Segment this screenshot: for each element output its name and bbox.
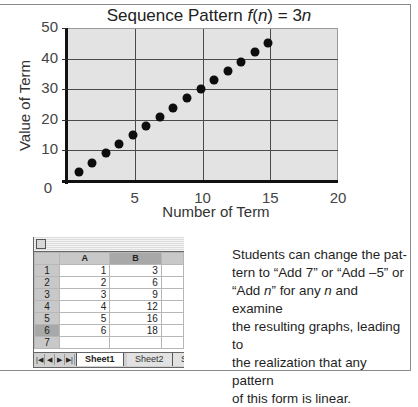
chart-title: Sequence Pattern f(n) = 3n [0, 6, 418, 26]
cell-a[interactable]: 2 [60, 277, 110, 289]
column-header-c[interactable] [161, 253, 183, 265]
data-point-marker [237, 57, 246, 66]
cell-a[interactable]: 4 [60, 301, 110, 313]
y-tick-label: 40 [28, 49, 58, 66]
row-header[interactable]: 5 [35, 313, 60, 325]
caption-line: the resulting graphs, leading to [232, 318, 410, 354]
cell-c[interactable] [161, 289, 183, 301]
cell-c[interactable] [161, 337, 183, 349]
y-tick-label: 50 [28, 18, 58, 35]
data-point-marker [155, 112, 164, 121]
table-row: 339 [35, 289, 184, 301]
data-point-marker [223, 66, 232, 75]
cell-a[interactable]: 6 [60, 325, 110, 337]
first-sheet-button[interactable]: |◀ [35, 354, 45, 365]
row-header[interactable]: 4 [35, 301, 60, 313]
cell-a[interactable]: 1 [60, 265, 110, 277]
data-point-marker [74, 167, 83, 176]
corner-cell[interactable] [35, 253, 60, 265]
row-header[interactable]: 3 [35, 289, 60, 301]
data-point-marker [182, 94, 191, 103]
table-row: 5516 [35, 313, 184, 325]
gridline-horizontal [67, 120, 338, 121]
data-point-marker [210, 76, 219, 85]
cell-b[interactable]: 18 [110, 325, 161, 337]
cell-a[interactable]: 3 [60, 289, 110, 301]
gridline-vertical [270, 28, 271, 181]
caption-text: Students can change the pat- tern to “Ad… [232, 246, 410, 407]
cell-a[interactable] [60, 337, 110, 349]
row-header[interactable]: 1 [35, 265, 60, 277]
last-sheet-button[interactable]: ▶| [65, 354, 75, 365]
tab-sheet2[interactable]: Sheet2 [127, 353, 173, 366]
tab-sheet1[interactable]: Sheet1 [76, 353, 124, 366]
cell-c[interactable] [161, 265, 183, 277]
caption-line: “Add n” for any n and examine [232, 282, 410, 318]
y-tick-label: 20 [28, 110, 58, 127]
next-sheet-button[interactable]: ▶ [55, 354, 65, 365]
sheet-tab-bar: |◀ ◀ ▶ ▶| Sheet1 Sheet2 S [34, 352, 184, 367]
tab-sheet3[interactable]: S [173, 353, 184, 366]
x-axis-title: Number of Term [0, 203, 418, 220]
y-tick-label: 10 [28, 140, 58, 157]
table-row: 4412 [35, 301, 184, 313]
y-tick-mark [62, 120, 67, 121]
cell-b[interactable]: 6 [110, 277, 161, 289]
column-header-b[interactable]: B [110, 253, 161, 265]
table-row: 226 [35, 277, 184, 289]
row-header[interactable]: 7 [35, 337, 60, 349]
table-row: 6618 [35, 325, 184, 337]
y-tick-mark [62, 28, 67, 29]
cell-c[interactable] [161, 325, 183, 337]
gridline-vertical [135, 28, 136, 181]
y-tick-mark [62, 150, 67, 151]
y-tick-label: 0 [22, 179, 52, 196]
data-point-marker [101, 149, 110, 158]
table-row: 7 [35, 337, 184, 349]
x-axis [62, 180, 338, 183]
data-point-marker [250, 48, 259, 57]
spreadsheet-grid: A B 1132263394412551666187 [34, 252, 184, 349]
data-point-marker [115, 140, 124, 149]
cell-b[interactable]: 3 [110, 265, 161, 277]
gridline-vertical [337, 28, 338, 181]
data-point-marker [142, 121, 151, 130]
spreadsheet-window: A B 1132263394412551666187 |◀ ◀ ▶ ▶| She… [33, 237, 184, 368]
data-point-marker [128, 131, 137, 140]
cell-b[interactable]: 9 [110, 289, 161, 301]
caption-line: of this form is linear. [232, 390, 410, 407]
caption-line: the realization that any pattern [232, 354, 410, 390]
data-point-marker [196, 85, 205, 94]
table-row: 113 [35, 265, 184, 277]
plot-area [67, 28, 338, 181]
caption-line: Students can change the pat- [232, 246, 410, 264]
data-point-marker [264, 39, 273, 48]
close-box-icon[interactable] [36, 239, 46, 249]
cell-a[interactable]: 5 [60, 313, 110, 325]
data-point-marker [88, 158, 97, 167]
cell-b[interactable]: 16 [110, 313, 161, 325]
column-header-a[interactable]: A [60, 253, 110, 265]
y-axis [65, 28, 68, 184]
cell-c[interactable] [161, 301, 183, 313]
y-tick-mark [62, 59, 67, 60]
row-header[interactable]: 2 [35, 277, 60, 289]
cell-b[interactable]: 12 [110, 301, 161, 313]
caption-line: tern to “Add 7” or “Add –5” or [232, 264, 410, 282]
y-tick-label: 30 [28, 79, 58, 96]
gridline-horizontal [67, 59, 338, 60]
row-header[interactable]: 6 [35, 325, 60, 337]
data-point-marker [169, 103, 178, 112]
prev-sheet-button[interactable]: ◀ [45, 354, 55, 365]
window-titlebar[interactable] [34, 237, 184, 252]
y-tick-mark [62, 89, 67, 90]
cell-b[interactable] [110, 337, 161, 349]
y-axis-title: Value of Term [16, 56, 33, 156]
gridline-horizontal [67, 28, 338, 29]
gridline-vertical [203, 28, 204, 181]
cell-c[interactable] [161, 277, 183, 289]
cell-c[interactable] [161, 313, 183, 325]
